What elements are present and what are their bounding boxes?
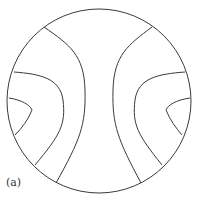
diagram [0, 0, 201, 203]
right-middle-curve [134, 72, 185, 165]
left-outer-curve [44, 27, 85, 183]
figure-label: (a) [6, 176, 21, 189]
right-outer-curve [113, 27, 152, 183]
outer-circle [7, 9, 191, 193]
left-inner-curve [9, 98, 32, 135]
